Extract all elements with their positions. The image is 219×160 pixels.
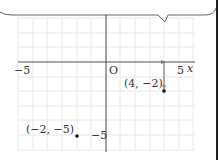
right-border [216, 0, 218, 160]
x-axis-label: x [187, 63, 193, 74]
tick-label-x-5: 5 [177, 65, 184, 76]
point-neg2-neg5 [75, 134, 79, 138]
coordinate-plane [0, 0, 219, 160]
point-label-neg2-neg5: (−2, −5) [26, 124, 74, 135]
point-label-4-neg2: (4, −2) [124, 78, 163, 89]
speech-bubble [0, 8, 216, 22]
tick-label-x-neg5: −5 [14, 65, 30, 76]
origin-label: O [109, 65, 118, 76]
tick-label-y-neg5: −5 [91, 130, 107, 141]
coordinate-diagram: −5 O 5 x (4, −2) (−2, −5) −5 [0, 0, 219, 160]
